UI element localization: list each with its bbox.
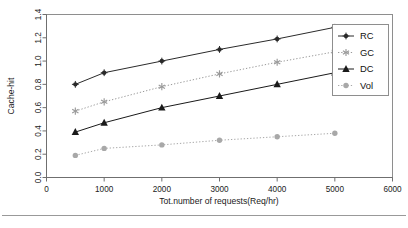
y-tick-label: 1.4 — [34, 8, 43, 20]
y-tick-label: 1.0 — [34, 55, 43, 67]
legend-label-vol: Vol — [360, 80, 373, 91]
x-tick-label: 5000 — [326, 185, 345, 194]
legend-label-gc: GC — [360, 47, 374, 58]
x-tick-label: 0 — [44, 185, 49, 194]
legend-marker-vol — [343, 83, 348, 88]
y-tick-label: 0.8 — [34, 78, 43, 90]
x-tick-label: 6000 — [383, 185, 402, 194]
legend-label-dc: DC — [360, 63, 374, 74]
data-point-vol — [101, 146, 106, 151]
y-tick-label: 0.2 — [34, 148, 43, 160]
x-axis-title: Tot.number of requests(Req/hr) — [159, 196, 279, 206]
chart-figure: 0.00.20.40.60.81.01.21.4 010002000300040… — [0, 0, 408, 228]
y-tick-label: 0.6 — [34, 102, 43, 114]
x-tick-label: 3000 — [210, 185, 229, 194]
x-tick-label: 4000 — [268, 185, 287, 194]
data-point-vol — [159, 142, 164, 147]
y-axis-title: Cache-hit — [6, 77, 16, 114]
data-point-vol — [332, 131, 337, 136]
y-tick-label: 0.4 — [34, 125, 43, 137]
y-tick-label: 1.2 — [34, 32, 43, 44]
cache-hit-line-chart: 0.00.20.40.60.81.01.21.4 010002000300040… — [0, 0, 408, 228]
legend-label-rc: RC — [360, 30, 374, 41]
data-point-vol — [274, 134, 279, 139]
data-point-vol — [217, 138, 222, 143]
x-tick-label: 1000 — [95, 185, 114, 194]
y-tick-label: 0.0 — [34, 171, 43, 183]
x-tick-label: 2000 — [153, 185, 172, 194]
chart-legend: RCGCDCVol — [333, 25, 389, 96]
data-point-vol — [73, 153, 78, 158]
